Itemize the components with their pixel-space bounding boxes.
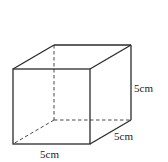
width-label: 5cm <box>40 148 59 160</box>
top-right-depth-edge <box>90 45 131 69</box>
height-label: 5cm <box>134 82 153 94</box>
front-face <box>13 69 90 144</box>
cube-diagram: 5cm 5cm 5cm <box>0 0 168 162</box>
hidden-bottom-left-depth-edge <box>13 120 54 144</box>
top-left-depth-edge <box>13 45 54 69</box>
depth-label: 5cm <box>114 130 133 142</box>
